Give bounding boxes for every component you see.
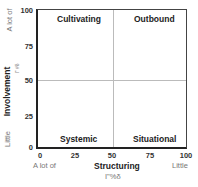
x-tick-0: 0	[30, 151, 50, 160]
vertical-divider	[113, 10, 114, 147]
quadrant-label-top-left: Cultivating	[57, 14, 101, 24]
horizontal-divider	[38, 80, 186, 81]
x-tick-75: 75	[140, 151, 160, 160]
x-tick-100: 100	[176, 151, 196, 160]
y-axis-subtitle: I" #δ	[14, 62, 21, 76]
x-axis-low-label: A lot of	[33, 161, 56, 170]
y-tick-75: 75	[19, 42, 33, 51]
y-tick-100: 100	[19, 6, 33, 15]
y-axis-high-label: A lot of	[5, 0, 15, 40]
y-axis-low-label: Little	[3, 124, 13, 154]
x-tick-25: 25	[65, 151, 85, 160]
quadrant-label-bottom-left: Systemic	[60, 134, 97, 144]
quadrant-label-bottom-right: Situational	[133, 134, 176, 144]
y-tick-50: 50	[19, 76, 33, 85]
x-axis-high-label: Little	[172, 161, 188, 170]
x-axis-subtitle: I"%δ	[105, 172, 121, 181]
x-tick-50: 50	[102, 151, 122, 160]
quadrant-label-top-right: Outbound	[134, 14, 175, 24]
quadrant-plot-area: Cultivating Outbound Systemic Situationa…	[36, 9, 187, 149]
y-tick-25: 25	[19, 112, 33, 121]
x-axis-title: Structuring	[94, 161, 140, 171]
y-axis-title: Involvement	[2, 67, 13, 117]
